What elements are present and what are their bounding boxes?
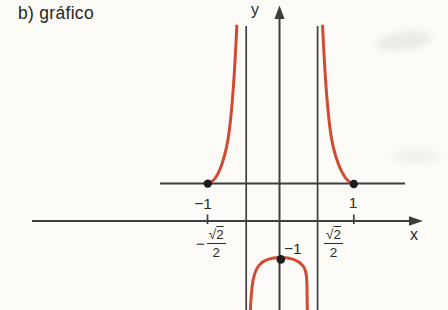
graph-figure: b) gráfico y x −1 1 −1 − √2 2 √2 2 [0, 0, 448, 310]
fraction: √2 2 [207, 227, 226, 260]
x-axis-arrowhead [409, 216, 423, 226]
curve-left-branch [208, 26, 237, 184]
fraction-denominator: 2 [330, 244, 338, 260]
left-asymptote-label: − √2 2 [196, 227, 226, 260]
x-axis-label: x [410, 227, 418, 244]
curve-right-branch [323, 26, 354, 184]
fraction-numerator: √2 [324, 227, 343, 244]
radicand: 2 [333, 227, 341, 242]
graph-canvas [0, 0, 448, 310]
point-neg1-1 [204, 179, 212, 187]
tick-label-x-neg1: −1 [190, 196, 216, 212]
figure-title: b) gráfico [18, 4, 94, 22]
right-asymptote-label: √2 2 [324, 227, 343, 260]
max-point-label: −1 [284, 241, 302, 257]
tick-label-x-pos1: 1 [340, 195, 366, 211]
fraction: √2 2 [324, 227, 343, 260]
fraction-denominator: 2 [212, 244, 220, 260]
y-axis-arrowhead [274, 6, 284, 20]
radicand: 2 [216, 227, 224, 242]
y-axis-label: y [251, 2, 259, 19]
point-pos1-1 [350, 180, 358, 188]
fraction-numerator: √2 [207, 227, 226, 244]
minus-sign: − [196, 235, 205, 252]
